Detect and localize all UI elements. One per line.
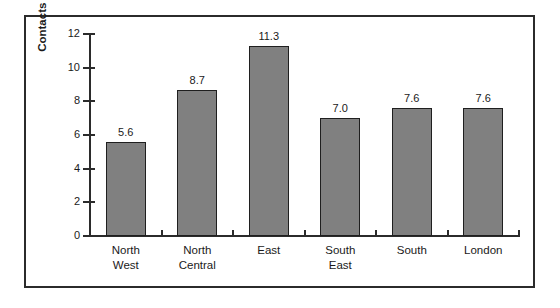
y-axis-tick-label: 6 xyxy=(46,129,80,140)
bar-value-label: 7.0 xyxy=(310,102,370,114)
x-axis-category-label: London xyxy=(438,243,528,258)
bar xyxy=(463,108,503,236)
x-axis-tick xyxy=(447,230,449,237)
x-axis-tick xyxy=(518,230,520,237)
y-axis-tick-label: 2 xyxy=(46,196,80,207)
y-axis-tick-label: 8 xyxy=(46,95,80,106)
x-axis-tick xyxy=(375,230,377,237)
x-axis-tick xyxy=(89,230,91,237)
bar-value-label: 7.6 xyxy=(453,92,513,104)
y-axis-tick xyxy=(83,201,95,203)
x-axis-tick xyxy=(304,230,306,237)
y-axis-tick-label: 4 xyxy=(46,163,80,174)
x-axis-tick xyxy=(161,230,163,237)
plot-area: Contacts per initial contact 024681012 5… xyxy=(0,0,560,308)
y-axis-tick xyxy=(83,67,95,69)
bar-value-label: 11.3 xyxy=(239,30,299,42)
bar xyxy=(392,108,432,236)
x-axis-tick xyxy=(232,230,234,237)
y-axis-tick xyxy=(83,134,95,136)
bar xyxy=(320,118,360,236)
y-axis-tick xyxy=(83,168,95,170)
bar xyxy=(106,142,146,236)
chart-figure: Contacts per initial contact 024681012 5… xyxy=(0,0,560,308)
bar-value-label: 5.6 xyxy=(96,126,156,138)
y-axis-tick xyxy=(83,100,95,102)
bar-value-label: 7.6 xyxy=(382,92,442,104)
bar xyxy=(249,46,289,236)
bar xyxy=(177,90,217,236)
bar-value-label: 8.7 xyxy=(167,74,227,86)
y-axis-tick-label: 10 xyxy=(46,62,80,73)
y-axis-tick-label: 0 xyxy=(46,230,80,241)
y-axis-tick-label: 12 xyxy=(46,28,80,39)
y-axis-tick xyxy=(83,33,95,35)
